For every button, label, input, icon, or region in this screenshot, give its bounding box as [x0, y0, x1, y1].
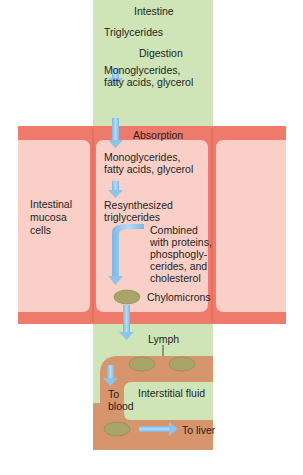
- to-liver-label: To liver: [182, 424, 215, 436]
- chylomicron-lymph: [169, 357, 195, 371]
- combined-5: cholesterol: [150, 272, 201, 284]
- monoglycerides-lumen-1: Monoglycerides,: [104, 64, 180, 76]
- absorption-label: Absorption: [133, 129, 183, 141]
- to-blood-label-2: blood: [108, 400, 134, 412]
- right-mucosa-cell: [216, 140, 286, 312]
- lymph-label: Lymph: [148, 333, 179, 345]
- combined-2: with proteins,: [150, 236, 212, 248]
- mucosa-label-2: mucosa: [30, 211, 67, 223]
- chylomicron: [114, 290, 140, 304]
- resynthesized-2: triglycerides: [104, 211, 160, 223]
- combined-3: phosphogly-: [150, 248, 207, 260]
- chylomicrons-label: Chylomicrons: [147, 291, 211, 303]
- interstitial-fluid-label: Interstitial fluid: [138, 387, 205, 399]
- monoglycerides-lumen-2: fatty acids, glycerol: [104, 76, 193, 88]
- resynthesized-1: Resynthesized: [104, 199, 173, 211]
- monoglycerides-cell-2: fatty acids, glycerol: [104, 163, 193, 175]
- combined-1: Combined: [150, 224, 198, 236]
- chylomicron-blood: [104, 422, 130, 436]
- mucosa-label-3: cells: [30, 224, 51, 236]
- triglycerides-label: Triglycerides: [104, 26, 163, 38]
- left-mucosa-cell: [18, 140, 90, 312]
- combined-4: cerides, and: [150, 260, 207, 272]
- to-blood-label-1: To: [108, 388, 119, 400]
- intestine-label: Intestine: [134, 5, 174, 17]
- chylomicron-lymph: [129, 357, 155, 371]
- mucosa-label-1: Intestinal: [30, 198, 72, 210]
- digestion-label: Digestion: [139, 47, 183, 59]
- monoglycerides-cell-1: Monoglycerides,: [104, 151, 180, 163]
